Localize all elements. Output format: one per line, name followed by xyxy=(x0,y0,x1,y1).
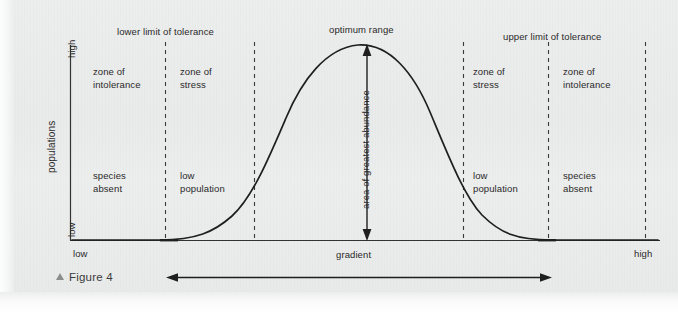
zone-right-intolerance-line1: zone of xyxy=(563,66,595,77)
label-optimum-range: optimum range xyxy=(329,24,394,37)
annotation-area-of-greatest-abundance: area of greatest abundance xyxy=(360,90,373,209)
figure-caption: Figure 4 xyxy=(56,271,113,283)
zone-right-stress-line2: stress xyxy=(473,79,499,90)
state-left-low-population: low population xyxy=(180,170,266,195)
solid-triangle-up-icon xyxy=(56,273,64,280)
state-right-low-population-line1: low xyxy=(473,170,488,181)
x-axis-low-label: low xyxy=(73,248,88,261)
state-left-species-absent: species absent xyxy=(93,170,179,195)
state-right-species-absent-line1: species xyxy=(563,170,596,181)
zone-left-intolerance: zone of intolerance xyxy=(93,66,179,91)
state-right-species-absent-line2: absent xyxy=(563,183,592,194)
label-lower-limit-of-tolerance: lower limit of tolerance xyxy=(117,26,214,39)
figure-caption-text: Figure 4 xyxy=(69,271,113,283)
state-right-low-population: low population xyxy=(473,170,559,195)
zone-left-stress-line2: stress xyxy=(180,79,206,90)
y-axis-title: populations xyxy=(46,121,59,173)
zone-right-intolerance-line2: intolerance xyxy=(563,79,611,90)
y-axis-high-label: high xyxy=(66,40,79,58)
state-left-low-population-line2: population xyxy=(180,183,225,194)
gradient-span-arrowhead-left xyxy=(166,273,178,281)
zone-right-intolerance: zone of intolerance xyxy=(563,66,649,91)
zone-right-stress-line1: zone of xyxy=(473,66,505,77)
label-upper-limit-of-tolerance: upper limit of tolerance xyxy=(503,31,602,44)
state-left-low-population-line1: low xyxy=(180,170,195,181)
state-left-species-absent-line1: species xyxy=(93,170,126,181)
graph-svg xyxy=(0,0,678,312)
y-axis-low-label: low xyxy=(66,222,79,237)
zone-right-stress: zone of stress xyxy=(473,66,559,91)
figure-4-species-tolerance-graph: high populations low lower limit of tole… xyxy=(0,0,678,312)
zone-left-intolerance-line1: zone of xyxy=(93,66,125,77)
zone-left-stress-line1: zone of xyxy=(180,66,212,77)
state-right-low-population-line2: population xyxy=(473,183,518,194)
state-left-species-absent-line2: absent xyxy=(93,183,122,194)
zone-left-stress: zone of stress xyxy=(180,66,266,91)
gradient-span-arrowhead-right xyxy=(540,273,552,281)
area-of-greatest-abundance-arrowhead-down xyxy=(363,229,372,241)
x-axis-high-label: high xyxy=(634,248,652,261)
state-right-species-absent: species absent xyxy=(563,170,649,195)
x-axis-title: gradient xyxy=(336,249,371,262)
zone-left-intolerance-line2: intolerance xyxy=(93,79,141,90)
